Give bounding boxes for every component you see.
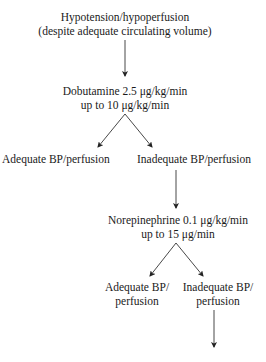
node-norepinephrine-adequate-line1: Adequate BP/ bbox=[100, 280, 174, 294]
arrow-norepinephrine-to-inadequate bbox=[176, 243, 203, 276]
arrow-norepinephrine-to-adequate bbox=[150, 243, 176, 276]
node-dobutamine-line2: up to 10 μg/kg/min bbox=[0, 98, 250, 112]
node-dobutamine: Dobutamine 2.5 μg/kg/min up to 10 μg/kg/… bbox=[0, 84, 250, 112]
node-dobutamine-adequate: Adequate BP/perfusion bbox=[2, 152, 110, 166]
node-dobutamine-line1: Dobutamine 2.5 μg/kg/min bbox=[0, 84, 250, 98]
node-norepinephrine: Norepinephrine 0.1 μg/kg/min up to 15 μg… bbox=[90, 213, 266, 241]
node-hypotension-line1: Hypotension/hypoperfusion bbox=[0, 10, 250, 24]
node-norepinephrine-line2: up to 15 μg/min bbox=[90, 227, 266, 241]
node-norepinephrine-inadequate-line2: perfusion bbox=[178, 294, 258, 308]
node-norepinephrine-inadequate-line1: Inadequate BP/ bbox=[178, 280, 258, 294]
node-norepinephrine-adequate-line2: perfusion bbox=[100, 294, 174, 308]
node-dobutamine-adequate-line1: Adequate BP/perfusion bbox=[2, 152, 110, 166]
node-norepinephrine-inadequate: Inadequate BP/ perfusion bbox=[178, 280, 258, 308]
node-dobutamine-inadequate: Inadequate BP/perfusion bbox=[137, 152, 251, 166]
node-norepinephrine-line1: Norepinephrine 0.1 μg/kg/min bbox=[90, 213, 266, 227]
node-dobutamine-inadequate-line1: Inadequate BP/perfusion bbox=[137, 152, 251, 166]
node-hypotension: Hypotension/hypoperfusion (despite adequ… bbox=[0, 10, 250, 38]
node-norepinephrine-adequate: Adequate BP/ perfusion bbox=[100, 280, 174, 308]
arrow-dobutamine-to-adequate bbox=[98, 114, 125, 147]
arrow-dobutamine-to-inadequate bbox=[125, 114, 152, 147]
node-next-step-cutoff bbox=[150, 355, 266, 362]
node-hypotension-line2: (despite adequate circulating volume) bbox=[0, 24, 250, 38]
